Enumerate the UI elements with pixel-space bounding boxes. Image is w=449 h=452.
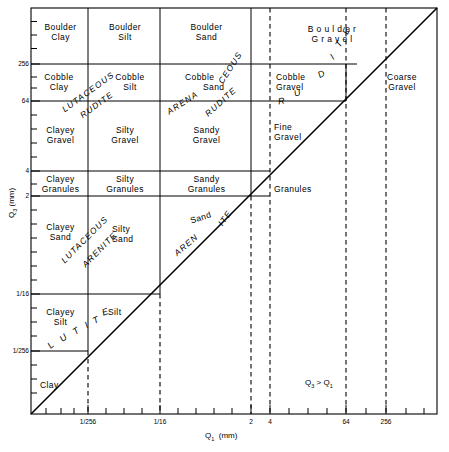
x-tick-label-256: 256 bbox=[375, 418, 397, 425]
class-rudite-letter-r: R bbox=[277, 96, 285, 107]
y-axis-title-unit: (mm) bbox=[7, 188, 16, 207]
field-boulder-gravel-line1: B o u l d e r bbox=[277, 24, 387, 34]
field-cobble-clay: Cobble Clay bbox=[33, 72, 85, 92]
field-silty-gravel: Silty Gravel bbox=[90, 125, 160, 145]
field-boulder-sand-line2: Sand bbox=[162, 32, 251, 42]
annotation-q1-subscript: 1 bbox=[330, 383, 333, 389]
field-sandy-gravel: Sandy Gravel bbox=[162, 125, 251, 145]
field-sandy-gravel-line1: Sandy bbox=[162, 125, 251, 135]
y-tick-label-256: 256 bbox=[8, 60, 29, 67]
field-coarse-gravel-line1: Coarse bbox=[372, 72, 432, 82]
field-clayey-granules: Clayey Granules bbox=[33, 174, 88, 194]
field-coarse-gravel: Coarse Gravel bbox=[372, 72, 432, 92]
field-sandy-granules: Sandy Granules bbox=[162, 174, 251, 194]
field-clayey-sand-line1: Clayey bbox=[33, 222, 88, 232]
field-silty-gravel-line2: Gravel bbox=[90, 135, 160, 145]
x-axis-title-unit: (mm) bbox=[219, 431, 238, 440]
field-boulder-gravel: B o u l d e r G r a v e l bbox=[277, 24, 387, 44]
field-silty-granules-line1: Silty bbox=[90, 174, 160, 184]
field-boulder-sand: Boulder Sand bbox=[162, 22, 251, 42]
x-tick-label-2: 2 bbox=[244, 418, 258, 425]
field-fine-gravel: Fine Gravel bbox=[274, 122, 301, 142]
field-cobble-gravel-line2: Gravel bbox=[276, 82, 305, 92]
field-silty-granules-line2: Granules bbox=[90, 184, 160, 194]
field-boulder-silt-line1: Boulder bbox=[90, 22, 160, 32]
y-tick-label-1-16: 1/16 bbox=[2, 290, 29, 297]
field-sandy-granules-line2: Granules bbox=[162, 184, 251, 194]
y-tick-label-64: 64 bbox=[8, 97, 29, 104]
annotation-greater-than: > Q bbox=[314, 378, 329, 387]
field-clayey-gravel: Clayey Gravel bbox=[33, 125, 88, 145]
field-clayey-gravel-line1: Clayey bbox=[33, 125, 88, 135]
field-cobble-gravel-line1: Cobble bbox=[276, 72, 305, 82]
field-boulder-clay: Boulder Clay bbox=[33, 22, 88, 42]
field-boulder-silt: Boulder Silt bbox=[90, 22, 160, 42]
field-clayey-silt: Clayey Silt bbox=[33, 307, 88, 327]
field-fine-gravel-line1: Fine bbox=[274, 122, 301, 132]
field-silt: Silt bbox=[108, 307, 121, 317]
x-axis-title-subscript: 1 bbox=[211, 436, 214, 442]
field-boulder-clay-line1: Boulder bbox=[33, 22, 88, 32]
y-axis-title-subscript: 3 bbox=[12, 209, 18, 212]
field-silty-granules: Silty Granules bbox=[90, 174, 160, 194]
y-axis-title: Q3 (mm) bbox=[7, 188, 18, 218]
dashed-guides bbox=[88, 8, 386, 414]
field-granules: Granules bbox=[274, 184, 312, 194]
field-clayey-granules-line2: Granules bbox=[33, 184, 88, 194]
field-silty-gravel-line1: Silty bbox=[90, 125, 160, 135]
field-clayey-granules-line1: Clayey bbox=[33, 174, 88, 184]
field-cobble-gravel: Cobble Gravel bbox=[276, 72, 305, 92]
x-axis-ticks bbox=[46, 405, 424, 414]
field-sandy-gravel-line2: Gravel bbox=[162, 135, 251, 145]
field-boulder-sand-line1: Boulder bbox=[162, 22, 251, 32]
field-cobble-silt-line2: Silt bbox=[104, 82, 156, 92]
field-boulder-clay-line2: Clay bbox=[33, 32, 88, 42]
field-cobble-clay-line1: Cobble bbox=[33, 72, 85, 82]
field-fine-gravel-line2: Gravel bbox=[274, 132, 301, 142]
field-clayey-silt-line2: Silt bbox=[33, 317, 88, 327]
x-axis-title: Q1 (mm) bbox=[205, 431, 237, 442]
x-tick-label-4: 4 bbox=[263, 418, 277, 425]
field-clayey-silt-line1: Clayey bbox=[33, 307, 88, 317]
field-sandy-granules-line1: Sandy bbox=[162, 174, 251, 184]
annotation-q3-greater-than-q1: Q3 > Q1 bbox=[305, 378, 333, 389]
field-cobble-clay-line2: Clay bbox=[33, 82, 85, 92]
field-boulder-silt-line2: Silt bbox=[90, 32, 160, 42]
field-clayey-gravel-line2: Gravel bbox=[33, 135, 88, 145]
field-clay: Clay bbox=[40, 380, 59, 390]
y-axis-title-symbol: Q bbox=[7, 212, 16, 218]
field-coarse-gravel-line2: Gravel bbox=[372, 82, 432, 92]
y-tick-label-1-256: 1/256 bbox=[0, 347, 29, 354]
x-tick-label-64: 64 bbox=[337, 418, 355, 425]
x-tick-label-1-256: 1/256 bbox=[73, 418, 103, 425]
sediment-classification-chart: 256 64 4 2 1/16 1/256 1/256 1/16 2 4 64 … bbox=[0, 0, 449, 452]
y-tick-label-4: 4 bbox=[8, 167, 29, 174]
x-tick-label-1-16: 1/16 bbox=[147, 418, 173, 425]
